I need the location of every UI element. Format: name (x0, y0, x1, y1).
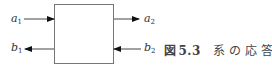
label-a2: a2 (144, 13, 155, 26)
label-b1: b1 (11, 42, 23, 55)
figure-number: 5.3 (179, 44, 201, 58)
label-a1: a1 (11, 13, 22, 26)
system-block (55, 5, 114, 64)
two-port-diagram: a1 b1 a2 b2 図5.3系の応答 (0, 0, 272, 68)
figure-caption: 図5.3系の応答 (164, 41, 272, 58)
label-b2: b2 (144, 42, 156, 55)
figure-label: 図 (164, 44, 177, 58)
caption-text: 系の応答 (213, 44, 272, 58)
